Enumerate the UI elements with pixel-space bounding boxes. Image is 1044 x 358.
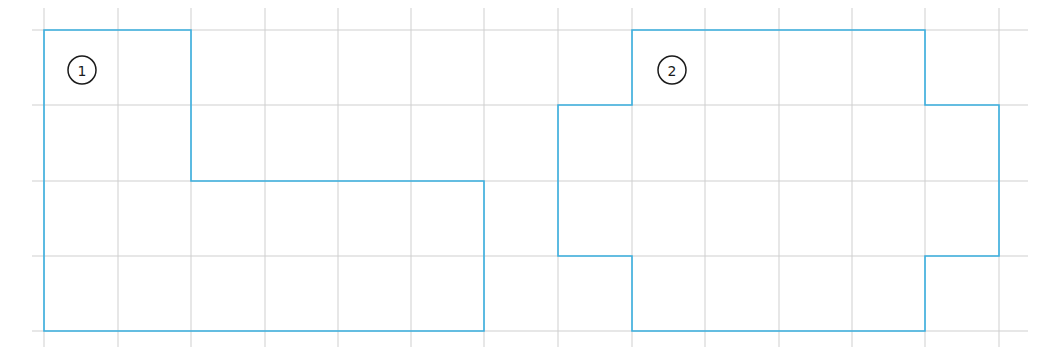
grid-diagram: 1 2 xyxy=(0,0,1044,358)
shape-2-label: 2 xyxy=(658,56,686,84)
shape-2-number: 2 xyxy=(668,63,677,79)
shape-1-number: 1 xyxy=(78,63,87,79)
grid-lines xyxy=(32,8,1028,347)
shape-1-label: 1 xyxy=(68,56,96,84)
